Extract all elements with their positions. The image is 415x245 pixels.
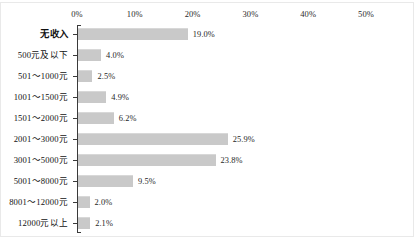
bar-8: [78, 196, 90, 208]
category-label-1: 500元及以下: [0, 45, 68, 66]
bar-value-label-2: 2.5%: [97, 66, 115, 87]
bar-value-label-3: 4.9%: [111, 87, 129, 108]
bar-4: [78, 112, 114, 124]
category-label-4: 1501～2000元: [0, 108, 68, 129]
category-label-9: 12000元以上: [0, 213, 68, 234]
bar-3: [78, 91, 106, 103]
horizontal-bar-chart: 0%10%20%30%40%50% 无收入19.0%500元及以下4.0%501…: [0, 0, 415, 245]
bar-value-label-7: 9.5%: [138, 171, 156, 192]
bar-row: 501～1000元2.5%: [0, 66, 415, 87]
category-label-2: 501～1000元: [0, 66, 68, 87]
y-tick-1: [73, 55, 77, 56]
bar-1: [78, 49, 101, 61]
y-tick-4: [73, 118, 77, 119]
bar-row: 12000元以上2.1%: [0, 213, 415, 234]
y-tick-8: [73, 202, 77, 203]
bar-value-label-0: 19.0%: [193, 24, 215, 45]
bar-value-label-4: 6.2%: [119, 108, 137, 129]
plot-area: 无收入19.0%500元及以下4.0%501～1000元2.5%1001～150…: [0, 24, 415, 234]
bar-value-label-6: 23.8%: [221, 150, 243, 171]
x-tick-label-5: 50%: [358, 8, 374, 20]
bar-row: 500元及以下4.0%: [0, 45, 415, 66]
bar-row: 无收入19.0%: [0, 24, 415, 45]
category-label-0: 无收入: [0, 24, 68, 45]
bar-row: 8001～12000元2.0%: [0, 192, 415, 213]
bar-value-label-8: 2.0%: [95, 192, 113, 213]
y-tick-5: [73, 139, 77, 140]
x-tick-label-1: 10%: [127, 8, 143, 20]
category-label-6: 3001～5000元: [0, 150, 68, 171]
bar-7: [78, 175, 133, 187]
bar-6: [78, 154, 216, 166]
category-label-7: 5001～8000元: [0, 171, 68, 192]
bar-5: [78, 133, 228, 145]
bar-row: 1001～1500元4.9%: [0, 87, 415, 108]
bar-row: 2001～3000元25.9%: [0, 129, 415, 150]
bar-0: [78, 28, 188, 40]
bar-value-label-1: 4.0%: [106, 45, 124, 66]
bar-9: [78, 217, 90, 229]
category-label-3: 1001～1500元: [0, 87, 68, 108]
category-label-8: 8001～12000元: [0, 192, 68, 213]
y-tick-6: [73, 160, 77, 161]
bar-value-label-5: 25.9%: [233, 129, 255, 150]
x-tick-label-0: 0%: [71, 8, 83, 20]
category-label-5: 2001～3000元: [0, 129, 68, 150]
bar-row: 3001～5000元23.8%: [0, 150, 415, 171]
y-tick-9: [73, 223, 77, 224]
y-tick-2: [73, 76, 77, 77]
x-axis-tick-labels: 0%10%20%30%40%50%: [0, 8, 415, 22]
bar-row: 5001～8000元9.5%: [0, 171, 415, 192]
bar-2: [78, 70, 92, 82]
x-tick-label-3: 30%: [242, 8, 258, 20]
bar-value-label-9: 2.1%: [95, 213, 113, 234]
bar-row: 1501～2000元6.2%: [0, 108, 415, 129]
x-tick-label-2: 20%: [185, 8, 201, 20]
x-tick-label-4: 40%: [300, 8, 316, 20]
y-tick-7: [73, 181, 77, 182]
y-tick-0: [73, 34, 77, 35]
y-tick-3: [73, 97, 77, 98]
